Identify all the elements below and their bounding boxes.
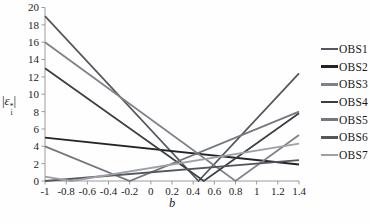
legend-label: OBS1 xyxy=(339,43,368,55)
y-tick-label: 16 xyxy=(28,36,40,48)
chart-legend: OBS1OBS2OBS3OBS4OBS5OBS6OBS7 xyxy=(321,40,368,164)
x-tick-label: -0.8 xyxy=(57,185,75,197)
legend-line-swatch xyxy=(321,101,338,104)
legend-line-swatch xyxy=(321,48,338,51)
legend-line-swatch xyxy=(321,83,338,86)
x-tick-label: 1.4 xyxy=(292,185,306,197)
line-chart-figure: 02468101214161820-1-0.8-0.6-0.4-0.200.20… xyxy=(0,0,370,224)
y-axis-label: |ε*i| xyxy=(2,93,16,116)
legend-item: OBS1 xyxy=(321,40,368,58)
legend-line-swatch xyxy=(321,136,338,139)
legend-label: OBS2 xyxy=(339,61,368,73)
legend-line-swatch xyxy=(321,154,338,157)
x-tick-label: 0.8 xyxy=(229,185,243,197)
x-tick-label: 0.6 xyxy=(207,185,221,197)
x-tick-label: -1 xyxy=(40,185,49,197)
chart-canvas: 02468101214161820-1-0.8-0.6-0.4-0.200.20… xyxy=(0,0,370,224)
legend-label: OBS7 xyxy=(339,149,368,161)
legend-item: OBS3 xyxy=(321,75,368,93)
y-tick-label: 20 xyxy=(28,1,40,13)
y-tick-label: 6 xyxy=(34,123,40,135)
x-tick-label: 1.2 xyxy=(271,185,285,197)
x-tick-label: -0.6 xyxy=(79,185,97,197)
legend-label: OBS6 xyxy=(339,131,368,143)
legend-line-swatch xyxy=(321,65,338,68)
legend-label: OBS5 xyxy=(339,114,368,126)
x-tick-label: -0.2 xyxy=(121,185,138,197)
legend-item: OBS7 xyxy=(321,146,368,164)
x-tick-label: 0.4 xyxy=(186,185,200,197)
legend-item: OBS2 xyxy=(321,58,368,76)
epsilon-sub: i xyxy=(11,110,13,116)
legend-item: OBS6 xyxy=(321,128,368,146)
y-tick-label: 10 xyxy=(28,88,40,100)
y-tick-label: 14 xyxy=(28,53,40,65)
x-tick-label: 0.2 xyxy=(165,185,179,197)
x-tick-label: 0 xyxy=(148,185,154,197)
legend-item: OBS5 xyxy=(321,111,368,129)
x-axis-label: b xyxy=(45,196,299,211)
y-tick-label: 8 xyxy=(34,106,40,118)
y-tick-label: 2 xyxy=(34,158,40,170)
x-tick-label: -0.4 xyxy=(100,185,118,197)
y-tick-label: 12 xyxy=(28,71,39,83)
legend-label: OBS4 xyxy=(339,96,368,108)
y-tick-label: 0 xyxy=(34,175,40,187)
y-axis-label-close-bar: | xyxy=(13,93,16,108)
legend-line-swatch xyxy=(321,118,338,121)
series-line-obs2 xyxy=(45,138,299,165)
y-tick-label: 4 xyxy=(34,140,40,152)
y-tick-label: 18 xyxy=(28,19,40,31)
legend-label: OBS3 xyxy=(339,78,368,90)
legend-item: OBS4 xyxy=(321,93,368,111)
series-line-obs1 xyxy=(45,16,299,181)
x-tick-label: 1 xyxy=(254,185,260,197)
